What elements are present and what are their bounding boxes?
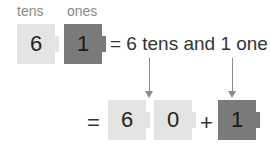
ones-digit: 1: [77, 31, 89, 57]
arrow-line-tens: [149, 58, 150, 92]
ones-value-digit: 1: [231, 107, 243, 133]
arrow-down-icon: [228, 91, 236, 98]
block-tab: [192, 112, 196, 128]
ones-label: ones: [67, 3, 97, 19]
plus-sign: +: [200, 110, 213, 136]
tens-value-block: 6: [108, 100, 146, 140]
block-tab: [146, 112, 150, 128]
tens-block: 6: [17, 24, 55, 64]
zero-block: 0: [154, 100, 192, 140]
block-tab: [55, 36, 59, 52]
block-tab: [256, 112, 260, 128]
ones-block: 1: [64, 24, 102, 64]
ones-value-block: 1: [218, 100, 256, 140]
block-tab: [102, 36, 106, 52]
equation-text: = 6 tens and 1 one: [110, 33, 268, 55]
tens-digit: 6: [30, 31, 42, 57]
equals-sign: =: [87, 110, 100, 136]
zero-digit: 0: [167, 107, 179, 133]
tens-label: tens: [17, 3, 43, 19]
tens-value-digit: 6: [121, 107, 133, 133]
arrow-down-icon: [145, 91, 153, 98]
arrow-line-ones: [232, 58, 233, 92]
